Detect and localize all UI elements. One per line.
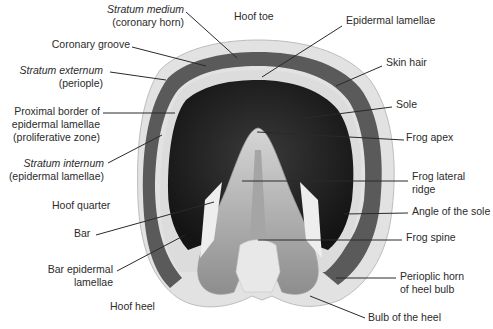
label-bar-epidermal-lamellae: Bar epidermal lamellae — [20, 263, 113, 289]
label-stratum-internum-line2: (epidermal lamellae) — [0, 170, 104, 183]
label-stratum-externum-line1: Stratum externum — [0, 64, 103, 77]
label-stratum-medium: Stratum medium (coronary horn) — [92, 3, 184, 29]
label-stratum-externum-line2: (periople) — [0, 77, 103, 90]
label-frog-lateral-ridge: Frog lateral ridge — [412, 170, 465, 196]
label-frog-lateral-ridge-line1: Frog lateral — [412, 170, 465, 183]
label-skin-hair: Skin hair — [386, 56, 427, 69]
label-stratum-medium-line1: Stratum medium — [92, 3, 184, 16]
label-proximal-border-line3: (proliferative zone) — [0, 131, 100, 144]
label-perioplic-horn-line1: Perioplic horn — [400, 270, 464, 283]
heel-bulb-hair — [236, 240, 280, 292]
label-stratum-medium-line2: (coronary horn) — [92, 16, 184, 29]
label-bar: Bar — [74, 227, 90, 240]
label-proximal-border-line1: Proximal border of — [0, 105, 100, 118]
label-proximal-border: Proximal border of epidermal lamellae (p… — [0, 105, 100, 144]
label-hoof-quarter: Hoof quarter — [52, 199, 110, 212]
label-bulb-of-heel: Bulb of the heel — [368, 311, 441, 324]
label-epidermal-lamellae: Epidermal lamellae — [346, 14, 435, 27]
label-coronary-groove: Coronary groove — [20, 38, 130, 51]
label-frog-lateral-ridge-line2: ridge — [412, 183, 465, 196]
label-stratum-externum: Stratum externum (periople) — [0, 64, 103, 90]
label-bar-epidermal-lamellae-line1: Bar epidermal — [20, 263, 113, 276]
label-bar-epidermal-lamellae-line2: lamellae — [20, 276, 113, 289]
label-perioplic-horn: Perioplic horn of heel bulb — [400, 270, 464, 296]
label-perioplic-horn-line2: of heel bulb — [400, 283, 464, 296]
label-hoof-heel: Hoof heel — [110, 300, 155, 313]
label-stratum-internum: Stratum internum (epidermal lamellae) — [0, 157, 104, 183]
label-angle-of-sole: Angle of the sole — [412, 205, 490, 218]
label-proximal-border-line2: epidermal lamellae — [0, 118, 100, 131]
label-sole: Sole — [396, 98, 417, 111]
label-hoof-toe: Hoof toe — [234, 10, 274, 23]
label-stratum-internum-line1: Stratum internum — [0, 157, 104, 170]
label-frog-apex: Frog apex — [406, 131, 453, 144]
label-frog-spine: Frog spine — [406, 231, 456, 244]
